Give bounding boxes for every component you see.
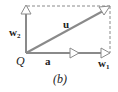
arrowhead-a-icon — [70, 48, 79, 58]
label-u: u — [63, 19, 69, 30]
caption: (b) — [53, 73, 67, 85]
label-w2: w2 — [9, 27, 20, 40]
label-a: a — [45, 56, 51, 67]
arrowhead-u-icon — [99, 6, 110, 15]
label-origin-q: Q — [16, 55, 25, 67]
label-w1: w1 — [98, 58, 109, 71]
